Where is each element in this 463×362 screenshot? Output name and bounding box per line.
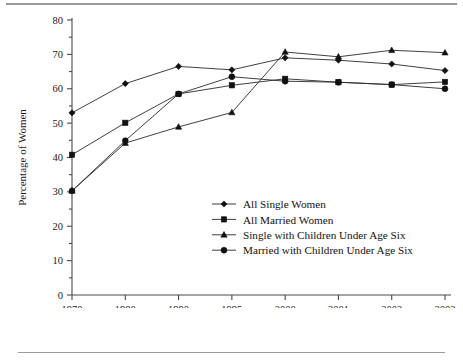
data-point-marker [69, 188, 75, 194]
bottom-rule-divider [18, 352, 445, 353]
x-tick-label: 2003 [435, 304, 456, 308]
data-point-marker [229, 74, 235, 80]
data-point-marker [282, 78, 288, 84]
legend-label: All Single Women [243, 198, 326, 210]
data-point-marker [221, 217, 226, 222]
x-tick-label: 1980 [115, 304, 136, 308]
data-point-marker [389, 82, 395, 88]
line-chart: 01020304050607080 1970198019901995200020… [0, 8, 463, 308]
data-point-marker [123, 120, 128, 125]
data-point-marker [282, 55, 288, 61]
data-point-marker [442, 86, 448, 92]
top-rule-divider [6, 3, 457, 5]
data-point-marker [122, 138, 128, 144]
data-point-marker [176, 91, 182, 97]
data-point-marker [442, 67, 448, 73]
series-layer [69, 47, 448, 194]
y-tick-label: 10 [53, 255, 64, 266]
legend-item[interactable]: All Married Women [212, 214, 334, 226]
x-tick-label: 1990 [168, 304, 189, 308]
y-tick-label: 70 [53, 49, 64, 60]
data-point-marker [69, 152, 74, 157]
series-line [72, 77, 445, 191]
x-tick-label: 2001 [328, 304, 349, 308]
x-tick-label: 1970 [62, 304, 83, 308]
data-point-marker [389, 61, 395, 67]
chart-legend: All Single WomenAll Married WomenSingle … [212, 198, 413, 256]
y-axis-title: Percentage of Women [16, 109, 28, 206]
y-tick-label: 20 [53, 221, 64, 232]
data-point-marker [221, 201, 227, 207]
y-tick-label: 30 [53, 186, 64, 197]
data-point-marker [175, 63, 181, 69]
y-tick-label: 80 [53, 15, 64, 26]
chart-canvas: 01020304050607080 1970198019901995200020… [0, 8, 463, 308]
data-point-marker [442, 79, 447, 84]
legend-item[interactable]: Single with Children Under Age Six [212, 229, 406, 241]
data-point-marker [69, 110, 75, 116]
data-point-marker [389, 47, 395, 53]
y-tick-label: 0 [58, 290, 63, 301]
series-circle [69, 74, 448, 194]
x-tick-label: 2000 [275, 304, 296, 308]
axis-titles: Percentage of WomenYear [16, 109, 269, 308]
data-point-marker [229, 67, 235, 73]
legend-label: Single with Children Under Age Six [243, 229, 406, 241]
legend-item[interactable]: Married with Children Under Age Six [212, 244, 413, 256]
x-tick-label: 1995 [221, 304, 242, 308]
data-point-marker [221, 232, 227, 238]
data-point-marker [335, 79, 341, 85]
y-tick-label: 40 [53, 152, 64, 163]
data-point-marker [221, 247, 227, 253]
x-axis: 19701980199019952000200120022003 [62, 295, 456, 308]
series-line [72, 79, 445, 155]
x-tick-label: 2002 [381, 304, 402, 308]
data-point-marker [122, 80, 128, 86]
figure-container: 01020304050607080 1970198019901995200020… [0, 0, 463, 362]
legend-label: All Married Women [243, 214, 334, 226]
data-point-marker [282, 49, 288, 55]
legend-item[interactable]: All Single Women [212, 198, 326, 210]
legend-label: Married with Children Under Age Six [243, 244, 413, 256]
data-point-marker [229, 83, 234, 88]
y-tick-label: 50 [53, 118, 64, 129]
y-tick-label: 60 [53, 83, 64, 94]
